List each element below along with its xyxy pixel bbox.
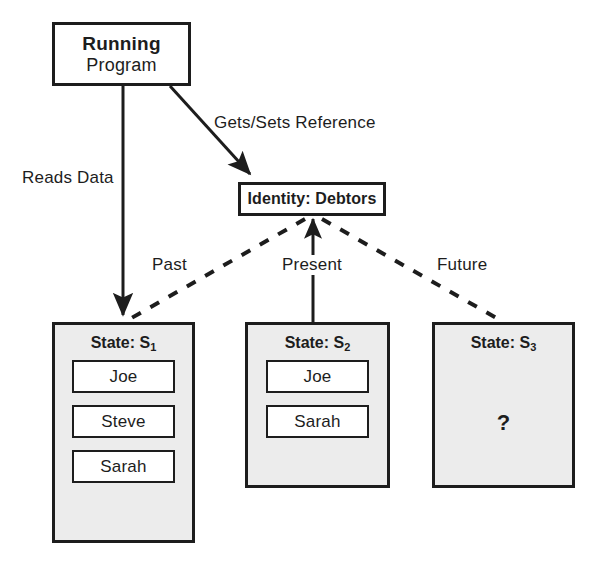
list-item[interactable]: Joe bbox=[72, 360, 175, 393]
state-box-s3[interactable]: State: S3 ? bbox=[432, 322, 575, 488]
state-subscript: 3 bbox=[530, 341, 536, 353]
state-title-s1: State: S1 bbox=[91, 334, 157, 352]
gets-sets-reference-label: Gets/Sets Reference bbox=[214, 113, 376, 133]
state-title-s2: State: S2 bbox=[285, 334, 351, 352]
state-title-prefix: State: S bbox=[471, 334, 531, 351]
running-program-subtitle: Program bbox=[86, 55, 156, 75]
present-label: Present bbox=[278, 255, 346, 275]
state-subscript: 1 bbox=[150, 341, 156, 353]
list-item-label: Joe bbox=[109, 367, 137, 387]
state-box-s1[interactable]: State: S1 Joe Steve Sarah bbox=[52, 322, 195, 543]
running-program-node[interactable]: Running Program bbox=[52, 22, 191, 86]
identity-label: Identity: Debtors bbox=[248, 190, 377, 208]
state-title-s3: State: S3 bbox=[471, 334, 537, 352]
state-subscript: 2 bbox=[344, 341, 350, 353]
state-box-s2[interactable]: State: S2 Joe Sarah bbox=[245, 322, 390, 488]
list-item-label: Sarah bbox=[294, 412, 340, 432]
future-label: Future bbox=[437, 255, 487, 275]
list-item[interactable]: Sarah bbox=[72, 450, 175, 483]
state-title-prefix: State: S bbox=[285, 334, 345, 351]
list-item[interactable]: Sarah bbox=[266, 405, 369, 438]
list-item[interactable]: Steve bbox=[72, 405, 175, 438]
diagram-canvas: Running Program Identity: Debtors Reads … bbox=[0, 0, 597, 569]
state-title-prefix: State: S bbox=[91, 334, 151, 351]
running-program-title: Running bbox=[82, 33, 160, 54]
identity-debtors-node[interactable]: Identity: Debtors bbox=[238, 182, 386, 216]
list-item-label: Sarah bbox=[100, 457, 146, 477]
reads-data-label: Reads Data bbox=[22, 168, 114, 188]
list-item[interactable]: Joe bbox=[266, 360, 369, 393]
list-item-label: Joe bbox=[303, 367, 331, 387]
unknown-state-placeholder: ? bbox=[497, 410, 510, 436]
list-item-label: Steve bbox=[101, 412, 145, 432]
past-label: Past bbox=[152, 255, 187, 275]
